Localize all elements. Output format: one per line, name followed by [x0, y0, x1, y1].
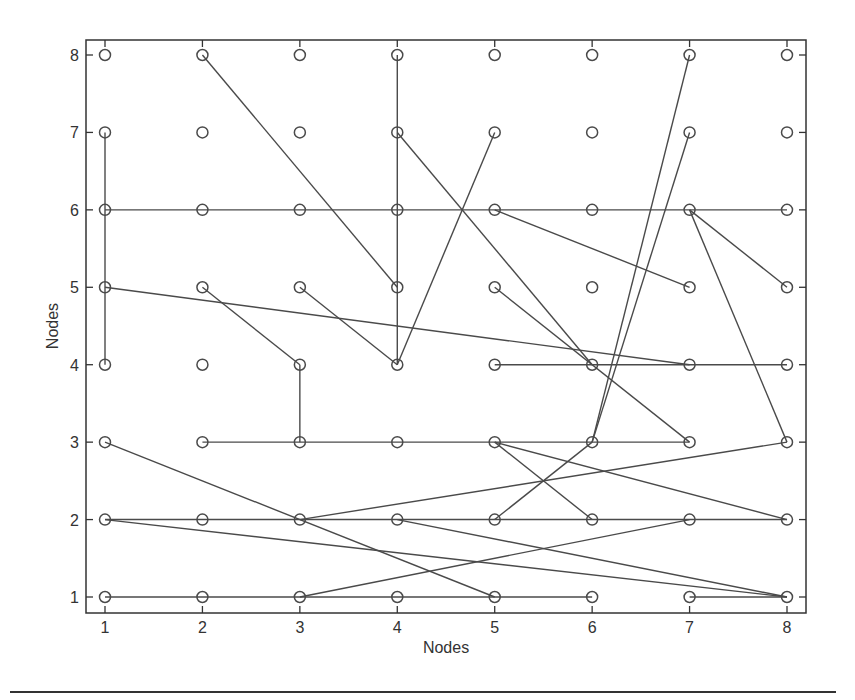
edge: [592, 55, 689, 442]
y-tick-labels: 12345678: [70, 47, 79, 606]
x-tick-label: 4: [393, 619, 402, 636]
y-axis-title: Nodes: [44, 303, 61, 349]
edge: [495, 210, 690, 287]
edge: [397, 520, 787, 597]
x-tick-label: 3: [295, 619, 304, 636]
y-tick-label: 6: [70, 202, 79, 219]
x-tick-label: 5: [490, 619, 499, 636]
edge: [592, 132, 689, 442]
x-tick-label: 6: [588, 619, 597, 636]
node-circle: [782, 50, 793, 61]
network-plot: 12345678 12345678 Nodes Nodes: [0, 0, 855, 700]
y-tick-label: 5: [70, 279, 79, 296]
edge: [300, 287, 397, 364]
y-tick-label: 4: [70, 357, 79, 374]
y-tick-label: 2: [70, 512, 79, 529]
edge: [690, 210, 787, 287]
edge: [397, 132, 494, 364]
edge: [495, 442, 787, 519]
x-tick-label: 1: [101, 619, 110, 636]
node-circle: [489, 50, 500, 61]
node-circle: [197, 127, 208, 138]
y-tick-label: 1: [70, 589, 79, 606]
x-tick-labels: 12345678: [101, 619, 792, 636]
node-circle: [197, 359, 208, 370]
node-circle: [587, 127, 598, 138]
y-tick-label: 8: [70, 47, 79, 64]
edge: [300, 520, 690, 597]
edge: [202, 287, 299, 364]
node-circle: [587, 282, 598, 293]
node-circle: [100, 50, 111, 61]
edge: [202, 55, 397, 287]
axis-ticks: [86, 40, 806, 613]
y-tick-label: 3: [70, 434, 79, 451]
edge: [105, 520, 787, 597]
node-circle: [782, 127, 793, 138]
x-tick-label: 7: [685, 619, 694, 636]
node-circle: [294, 50, 305, 61]
edge: [690, 210, 787, 442]
bottom-rule: [10, 691, 836, 693]
node-circle: [294, 127, 305, 138]
node-circle: [587, 50, 598, 61]
plot-frame: [86, 40, 806, 613]
y-tick-label: 7: [70, 124, 79, 141]
edge: [300, 442, 787, 519]
x-axis-title: Nodes: [423, 639, 469, 656]
x-tick-label: 8: [783, 619, 792, 636]
x-tick-label: 2: [198, 619, 207, 636]
